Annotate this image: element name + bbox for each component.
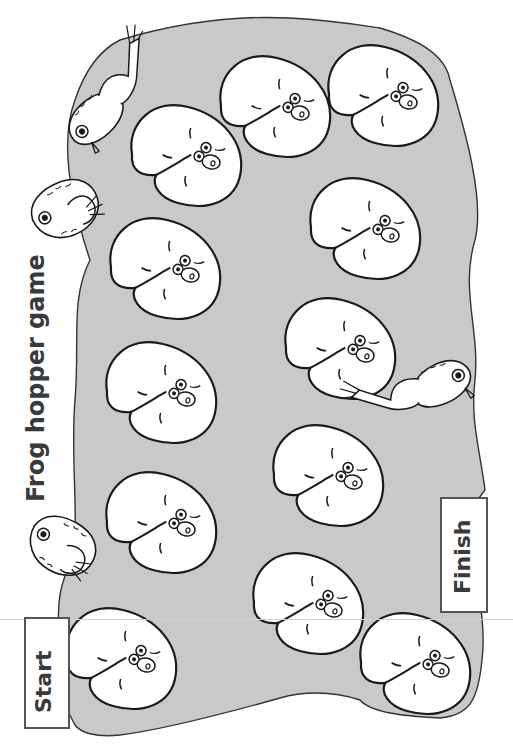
game-title: Frog hopper game <box>22 254 50 502</box>
start-label: Start <box>31 650 56 713</box>
finish-label: Finish <box>450 519 475 594</box>
game-board <box>0 0 513 747</box>
fold-line <box>0 619 513 620</box>
